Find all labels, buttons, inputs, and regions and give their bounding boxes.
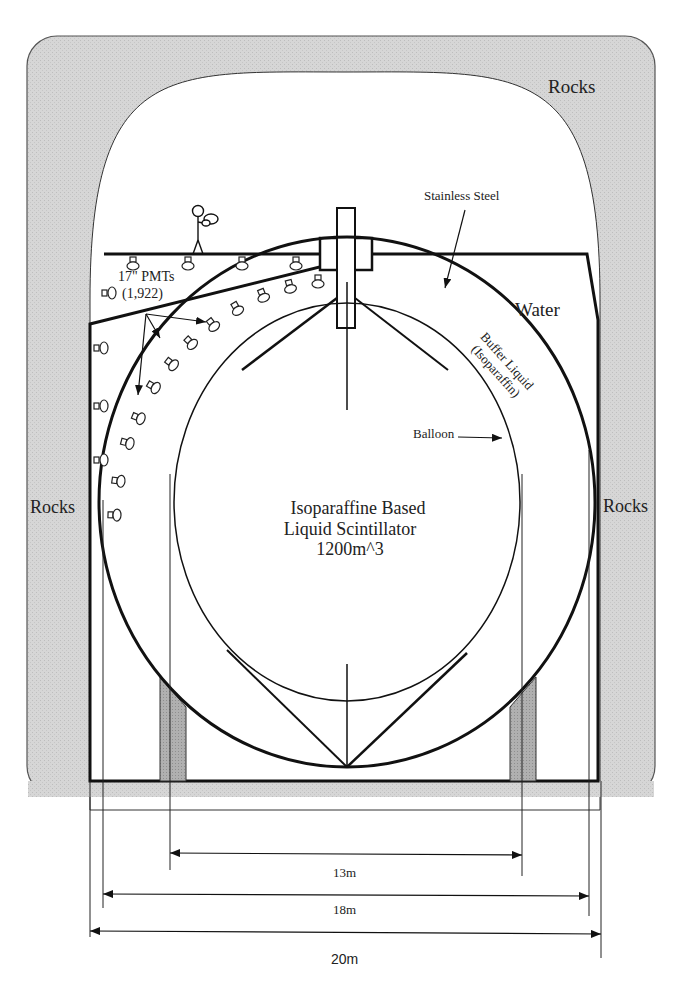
label-scintillator-line3: 1200m^3 (230, 539, 470, 560)
detector-diagram (0, 0, 684, 989)
label-scintillator: Isoparaffine Based Liquid Scintillator 1… (230, 498, 470, 560)
label-scintillator-line1: Isoparaffine Based (230, 498, 470, 519)
label-pmts-count: (1,922) (122, 287, 163, 301)
label-rocks-top-right: Rocks (548, 77, 596, 96)
label-water: Water (515, 300, 560, 319)
label-balloon: Balloon (413, 427, 454, 440)
label-scintillator-line2: Liquid Scintillator (230, 519, 470, 540)
label-stainless-steel: Stainless Steel (424, 189, 499, 202)
label-rocks-right: Rocks (603, 497, 648, 515)
label-pmts: 17" PMTs (118, 270, 174, 284)
dimension-label-20m: 20m (331, 952, 358, 966)
dimension-label-13m: 13m (333, 866, 356, 879)
label-rocks-left: Rocks (30, 498, 75, 516)
dimension-label-18m: 18m (333, 903, 356, 916)
